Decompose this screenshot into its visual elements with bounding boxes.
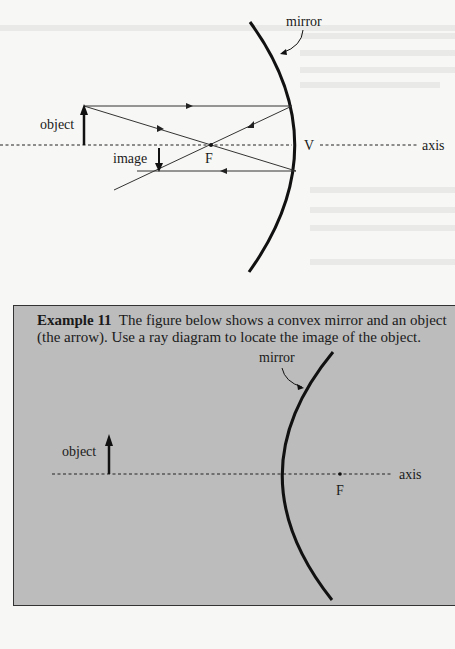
focal-point-dot [338,472,342,476]
object-label: object [62,444,96,459]
concave-mirror [249,22,295,272]
vertex-label: V [304,138,314,153]
image-label: image [113,151,147,166]
mirror-pointer-arrow [282,368,302,387]
object-label: object [40,117,74,132]
focal-point-dot [209,143,213,147]
mirror-label: mirror [286,14,322,29]
focal-point-label: F [336,483,344,498]
mirror-label: mirror [259,350,295,365]
convex-mirror-diagram: mirror object F axis [0,300,455,649]
concave-mirror-ray-diagram: mirror object image F V axis [0,0,455,300]
convex-mirror [282,352,333,600]
mirror-pointer-arrow [282,30,303,53]
axis-label: axis [422,138,445,153]
focal-point-label: F [205,151,213,166]
axis-label: axis [399,467,422,482]
